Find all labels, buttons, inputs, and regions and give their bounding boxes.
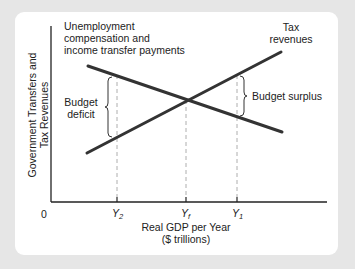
x-axis-label: Real GDP per Year ($ trillions) bbox=[126, 221, 246, 245]
transfers-label-line1: Unemployment bbox=[64, 20, 185, 32]
budget-deficit-label: Budget deficit bbox=[58, 96, 104, 120]
transfers-label: Unemployment compensation and income tra… bbox=[64, 20, 185, 56]
transfers-label-line2: compensation and bbox=[64, 32, 185, 44]
x-axis-label-line1: Real GDP per Year bbox=[126, 221, 246, 233]
tax-label-line1: Tax bbox=[261, 21, 321, 33]
tick-y2-sub: 2 bbox=[119, 212, 123, 221]
tax-revenues-line bbox=[87, 52, 281, 153]
deficit-label-line1: Budget bbox=[58, 96, 104, 108]
tick-label-y2: Y2 bbox=[112, 207, 123, 221]
tick-yf-sub: f bbox=[188, 212, 190, 221]
origin-label: 0 bbox=[41, 208, 47, 220]
tick-label-y1: Y1 bbox=[232, 207, 243, 221]
tick-y1-sub: 1 bbox=[239, 212, 243, 221]
x-axis-label-line2: ($ trillions) bbox=[126, 233, 246, 245]
deficit-brace bbox=[105, 77, 112, 137]
surplus-brace bbox=[240, 76, 247, 116]
y-axis-label: Government Transfers and Tax Revenues bbox=[26, 53, 50, 178]
y-axis-label-line2: Tax Revenues bbox=[38, 53, 50, 178]
transfers-label-line3: income transfer payments bbox=[64, 44, 185, 56]
budget-surplus-label: Budget surplus bbox=[252, 90, 322, 102]
deficit-label-line2: deficit bbox=[58, 108, 104, 120]
y-axis-label-line1: Government Transfers and bbox=[26, 53, 38, 178]
tax-label-line2: revenues bbox=[261, 33, 321, 45]
tick-y2-base: Y bbox=[112, 207, 119, 219]
tick-y1-base: Y bbox=[232, 207, 239, 219]
tax-revenues-label: Tax revenues bbox=[261, 21, 321, 45]
tick-label-yf: Yf bbox=[181, 207, 190, 221]
tick-yf-base: Y bbox=[181, 207, 188, 219]
